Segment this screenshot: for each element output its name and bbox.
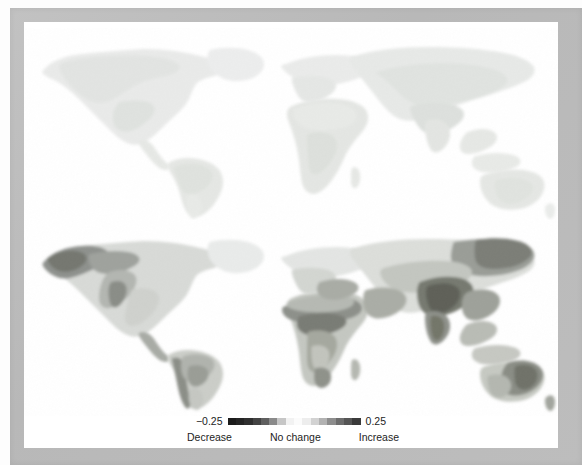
colorbar-segment [294, 418, 302, 425]
colorbar-segment [228, 418, 236, 425]
legend: −0.25 [24, 414, 558, 448]
colorbar-segment [352, 418, 360, 425]
colorbar-segment [269, 418, 277, 425]
colorbar-segment [277, 418, 285, 425]
colorbar-segment [327, 418, 335, 425]
legend-min-value: −0.25 [196, 416, 223, 427]
colorbar-segment [302, 418, 310, 425]
world-map-b-svg [24, 220, 558, 416]
colorbar-segment [286, 418, 294, 425]
colorbar [228, 418, 361, 425]
legend-category-labels: Decrease No change Increase [187, 431, 399, 443]
colorbar-segment [261, 418, 269, 425]
figure-canvas: (a) [24, 22, 558, 448]
map-panel-b [24, 220, 558, 416]
figure-root: (a) [0, 0, 582, 465]
colorbar-segment [344, 418, 352, 425]
map-panel-a [24, 28, 558, 224]
legend-label-no-change: No change [270, 431, 321, 443]
colorbar-segment [336, 418, 344, 425]
legend-max-value: 0.25 [366, 416, 386, 427]
colorbar-segment [311, 418, 319, 425]
colorbar-segment [236, 418, 244, 425]
colorbar-segment [319, 418, 327, 425]
colorbar-segment [244, 418, 252, 425]
legend-colorbar-row: −0.25 [24, 414, 558, 429]
world-map-a-svg [24, 28, 558, 224]
colorbar-segment [253, 418, 261, 425]
legend-label-decrease: Decrease [187, 431, 232, 443]
legend-label-increase: Increase [359, 431, 399, 443]
